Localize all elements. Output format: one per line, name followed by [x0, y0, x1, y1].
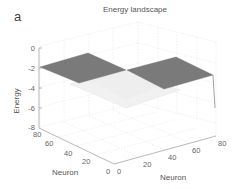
svg-text:60: 60 [45, 139, 53, 148]
svg-text:-4: -4 [28, 84, 35, 93]
energy-landscape-plot: 0 -2 -4 -6 -8 Energy 80 60 40 20 0 Neuro… [0, 0, 240, 189]
svg-text:80: 80 [218, 139, 226, 148]
svg-text:60: 60 [192, 146, 200, 155]
svg-text:0: 0 [31, 44, 35, 53]
svg-text:40: 40 [64, 149, 72, 158]
svg-text:20: 20 [143, 160, 151, 169]
svg-text:40: 40 [168, 153, 176, 162]
y-axis-label: Neuron [52, 168, 78, 177]
svg-text:0: 0 [106, 167, 110, 176]
surface-edge-drop [213, 75, 215, 108]
z-tick-labels: 0 -2 -4 -6 -8 [28, 44, 35, 132]
svg-text:0: 0 [117, 167, 121, 176]
svg-text:-2: -2 [28, 64, 35, 73]
x-axis-label: Neuron [160, 173, 186, 182]
svg-text:-6: -6 [28, 104, 35, 113]
z-axis-label: Energy [12, 88, 21, 113]
svg-text:20: 20 [82, 157, 90, 166]
svg-text:80: 80 [33, 130, 41, 139]
